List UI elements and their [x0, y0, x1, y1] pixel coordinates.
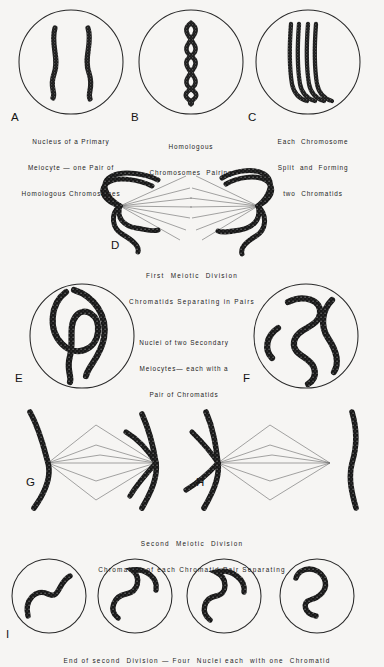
- caption-end-of-second-division: End of second Division — Four Nuclei eac…: [14, 640, 380, 667]
- panel-c-group: [256, 10, 360, 114]
- caption-panel-b: Homologous Chromosomes Pairing: [128, 126, 254, 195]
- caption-line: Chromosomes Pairing: [128, 169, 254, 178]
- spindle-fibers-g: [48, 425, 156, 500]
- chromatid-pair-strand: [267, 328, 278, 358]
- plate-label-g: G: [26, 477, 35, 489]
- caption-line: Homologous: [128, 143, 254, 152]
- caption-line: Nuclei of two Secondary: [118, 339, 250, 348]
- panel-g-group: [30, 412, 156, 508]
- caption-line: Second Meiotic Division: [32, 540, 352, 549]
- panel-a-group: [19, 10, 123, 114]
- chromatid-strand: [315, 24, 332, 101]
- caption-panel-a: Nucleus of a Primary Meiocyte — one Pair…: [6, 121, 136, 216]
- caption-line: two Chromatids: [251, 190, 375, 199]
- chromatid-strand: [30, 412, 49, 508]
- plate-label-h: H: [196, 477, 205, 489]
- caption-line: Each Chromosome: [251, 138, 375, 147]
- panel-b-group: [139, 10, 243, 114]
- chromatid-strand: [350, 412, 356, 508]
- plate-label-e: E: [15, 373, 23, 385]
- caption-line: Nucleus of a Primary: [6, 138, 136, 147]
- caption-secondary-meiocytes: Nuclei of two Secondary Meiocytes— each …: [118, 322, 250, 417]
- caption-panel-d: First Meiotic Division Chromatids Separa…: [74, 255, 310, 324]
- caption-line: First Meiotic Division: [74, 272, 310, 281]
- chromosome-strand: [52, 28, 56, 98]
- spindle-fibers-h: [218, 425, 330, 500]
- plate-label-i: I: [6, 629, 10, 641]
- caption-line: Homologous Chromosomes: [6, 190, 136, 199]
- caption-line: Meiocyte — one Pair of: [6, 164, 136, 173]
- plate-label-d: D: [111, 240, 120, 252]
- caption-second-meiotic-division: Second Meiotic Division Chromatids of ea…: [32, 523, 352, 592]
- caption-line: Split and Forming: [251, 164, 375, 173]
- caption-line: Pair of Chromatids: [118, 391, 250, 400]
- caption-line: Chromatids Separating in Pairs: [74, 298, 310, 307]
- caption-line: End of second Division — Four Nuclei eac…: [14, 657, 380, 666]
- caption-line: Chromatids of each Chromatid Pair Separa…: [32, 566, 352, 575]
- panel-h-group: [186, 412, 356, 508]
- chromatid-pair-strand: [323, 300, 337, 372]
- caption-panel-c: Each Chromosome Split and Forming two Ch…: [251, 121, 375, 216]
- caption-line: Meiocytes— each with a: [118, 365, 250, 374]
- chromosome-strand: [87, 28, 91, 99]
- panel-a-nucleus-circle: [19, 10, 123, 114]
